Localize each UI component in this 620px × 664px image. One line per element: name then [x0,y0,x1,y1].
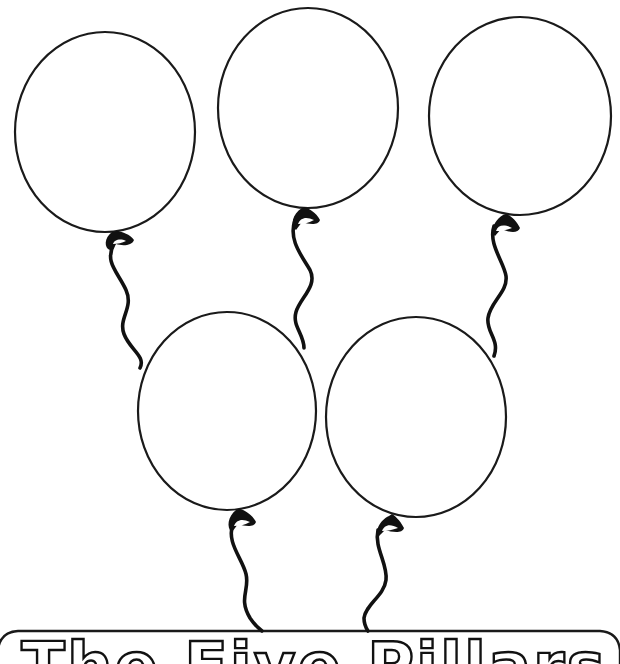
balloon-string-icon [231,524,262,631]
balloon-string-icon [488,226,506,356]
balloon-knot-icon [493,214,520,236]
title-text: The Five Pillars [21,629,607,664]
title-banner: The Five Pillars [0,629,620,664]
balloon-5-outline [326,317,506,517]
balloon-string-icon [364,530,386,631]
balloon-1 [15,32,195,368]
balloon-1-outline [15,32,195,232]
balloon-3 [429,17,611,356]
balloon-3-outline [429,17,611,215]
balloon-4-outline [138,312,316,510]
balloon-knot-icon [106,231,134,250]
balloon-4 [138,312,316,631]
balloon-string-icon [293,220,312,348]
balloon-2 [218,8,398,348]
balloon-string-icon [111,244,142,368]
balloon-knot-icon [229,509,256,532]
balloon-knot-icon [377,514,404,536]
balloon-2-outline [218,8,398,208]
balloon-5 [326,317,506,631]
balloon-knot-icon [293,207,320,230]
coloring-page: The Five Pillars [0,0,620,664]
